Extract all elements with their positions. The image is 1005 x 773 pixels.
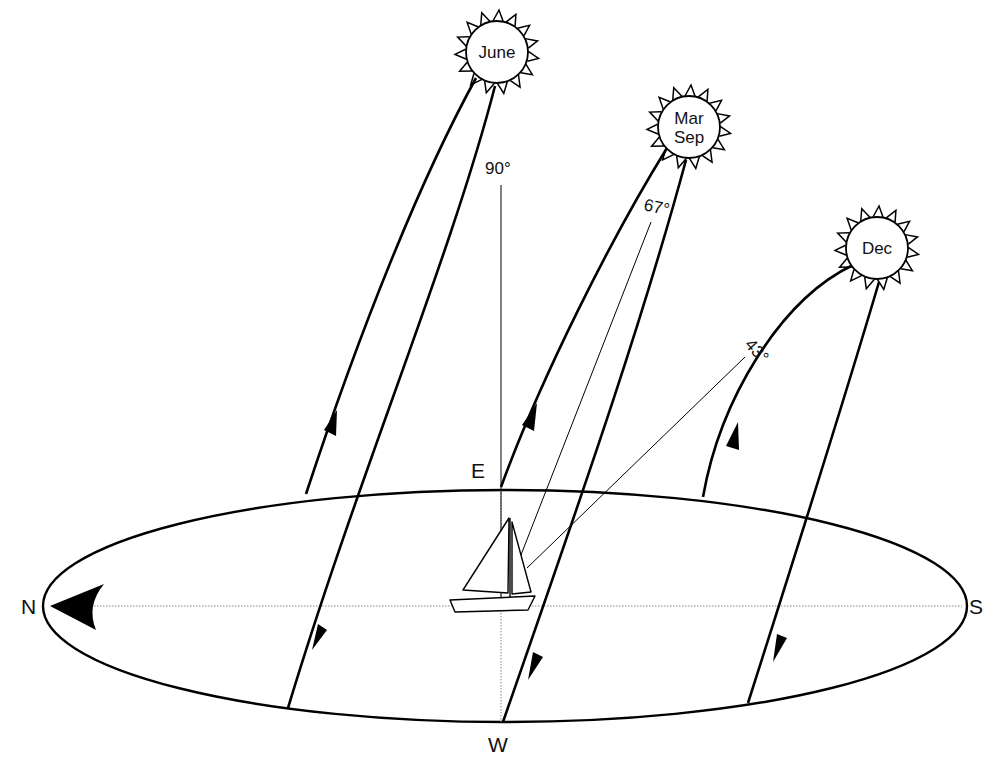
- mainsail: [463, 518, 509, 593]
- altitude-line-43: [527, 357, 745, 568]
- sun-dec: Dec: [835, 206, 920, 290]
- sun-label-sep: Sep: [674, 128, 704, 147]
- sun-label-june: June: [479, 43, 516, 62]
- compass-west: W: [488, 733, 508, 756]
- angle-label-90: 90°: [485, 159, 511, 178]
- hull: [450, 596, 535, 612]
- compass-east: E: [471, 459, 485, 482]
- june-sun-path: [288, 78, 495, 708]
- sun-path-diagram: June Mar Sep: [0, 0, 1005, 773]
- sun-label-dec: Dec: [862, 239, 893, 258]
- sailboat: [450, 518, 535, 612]
- december-sun-path: [703, 265, 879, 703]
- equinox-sun-path: [501, 148, 686, 722]
- sun-label-mar: Mar: [674, 109, 704, 128]
- compass-north: N: [21, 595, 36, 618]
- north-arrow-icon: [50, 584, 104, 630]
- jib: [512, 522, 531, 594]
- angle-label-67: 67°: [642, 195, 671, 219]
- compass-south: S: [969, 595, 983, 618]
- sun-june: June: [455, 10, 540, 94]
- sun-mar-sep: Mar Sep: [647, 85, 732, 169]
